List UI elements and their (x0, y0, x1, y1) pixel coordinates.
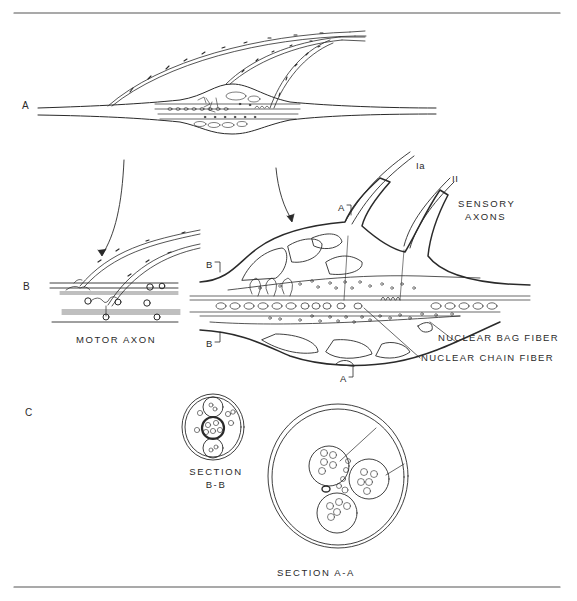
panel-a-axons (108, 31, 366, 108)
section-marker-b-bottom: B (206, 339, 214, 349)
section-bb (182, 394, 244, 460)
arrow-left (102, 160, 124, 255)
section-marker-a-bottom: A (340, 374, 348, 384)
sensory-axons-label-1: SENSORY (458, 199, 516, 209)
panel-label-c: C (25, 408, 32, 418)
panel-a-spindle (38, 31, 436, 134)
spindle-diagram (0, 0, 577, 601)
panel-label-a: A (22, 101, 29, 111)
section-marker-a-top: A (338, 203, 346, 213)
section-marker-b-top: B (206, 260, 214, 270)
motor-axon-label: MOTOR AXON (76, 335, 156, 345)
ia-label: Ia (416, 161, 425, 171)
panel-b-spindle (190, 152, 530, 377)
nuclear-chain-fiber-label: NUCLEAR CHAIN FIBER (421, 353, 554, 363)
arrow-right (276, 168, 292, 220)
nuclear-bag-fiber-label: NUCLEAR BAG FIBER (438, 333, 559, 343)
section-bb-caption-1: SECTION (189, 467, 242, 477)
section-bb-caption-2: B-B (206, 480, 227, 490)
panel-b-motor (50, 160, 200, 322)
ii-label: II (452, 174, 458, 184)
section-aa (268, 404, 408, 548)
panel-label-b: B (23, 282, 30, 292)
sensory-axons-label-2: AXONS (465, 212, 506, 222)
section-aa-caption: SECTION A-A (277, 568, 355, 578)
